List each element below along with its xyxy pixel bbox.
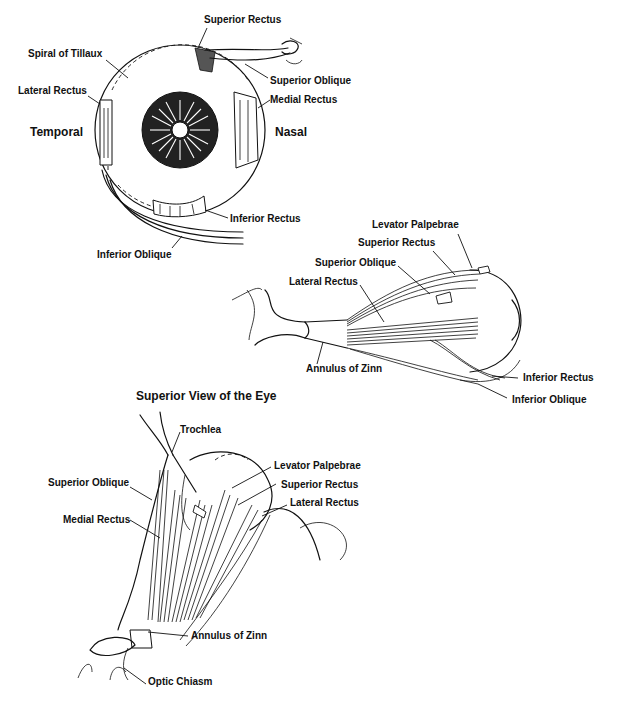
label-b-inferior-oblique: Inferior Oblique (512, 395, 586, 405)
superior-view-drawing (78, 412, 346, 684)
label-a-inferior-oblique: Inferior Oblique (97, 250, 171, 260)
label-c-optic-chiasm: Optic Chiasm (148, 677, 212, 687)
label-b-superior-oblique: Superior Oblique (315, 258, 396, 268)
label-c-trochlea: Trochlea (180, 425, 221, 435)
label-c-medial-rectus: Medial Rectus (63, 515, 130, 525)
label-a-inferior-rectus: Inferior Rectus (230, 214, 301, 224)
figure-c-title: Superior View of the Eye (136, 390, 276, 402)
label-c-lateral-rectus: Lateral Rectus (290, 498, 359, 508)
label-b-annulus-of-zinn: Annulus of Zinn (306, 364, 382, 374)
label-a-spiral-of-tillaux: Spiral of Tillaux (28, 49, 102, 59)
label-a-superior-oblique: Superior Oblique (270, 76, 351, 86)
label-a-nasal: Nasal (275, 126, 307, 138)
label-b-lateral-rectus: Lateral Rectus (289, 277, 358, 287)
label-b-levator-palpebrae: Levator Palpebrae (372, 220, 459, 230)
eye-muscles-diagram (0, 0, 621, 703)
label-a-superior-rectus: Superior Rectus (204, 15, 281, 25)
label-c-annulus-of-zinn: Annulus of Zinn (191, 631, 267, 641)
label-b-inferior-rectus: Inferior Rectus (523, 373, 594, 383)
label-c-superior-oblique: Superior Oblique (48, 478, 129, 488)
label-a-lateral-rectus: Lateral Rectus (18, 86, 87, 96)
label-c-superior-rectus: Superior Rectus (281, 480, 358, 490)
label-a-medial-rectus: Medial Rectus (270, 95, 337, 105)
label-b-superior-rectus: Superior Rectus (358, 238, 435, 248)
label-a-temporal: Temporal (30, 126, 83, 138)
label-c-levator-palpebrae: Levator Palpebrae (274, 461, 361, 471)
